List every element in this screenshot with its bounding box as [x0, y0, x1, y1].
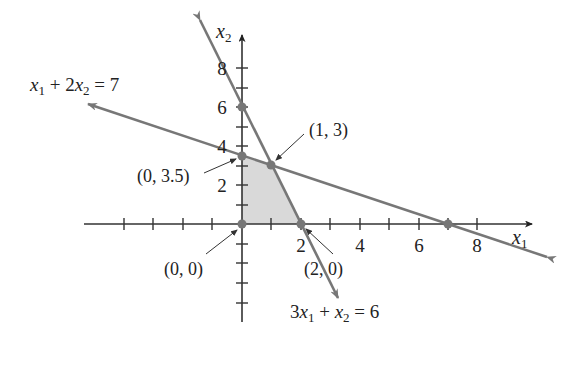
y-axis-label: x2 — [215, 20, 231, 45]
svg-text:(1, 3): (1, 3) — [309, 120, 348, 141]
point-0-6 — [238, 103, 247, 112]
svg-text:6: 6 — [217, 97, 227, 118]
linear-program-graph: 2 4 6 8 2 4 6 8 x1 x2 (0, 3.5) (1, 3) (0… — [0, 0, 568, 375]
equation-label-1: x1 + 2x2 = 7 — [29, 74, 119, 98]
leader-1-3 — [276, 134, 304, 160]
svg-text:6: 6 — [414, 235, 424, 256]
equation-label-2: 3x1 + x2 = 6 — [290, 301, 379, 325]
point-0-3.5 — [238, 152, 247, 161]
leader-0-3.5 — [204, 159, 236, 173]
svg-text:(2, 0): (2, 0) — [304, 259, 343, 280]
svg-text:8: 8 — [217, 58, 227, 79]
point-7-0 — [444, 220, 453, 229]
svg-text:4: 4 — [355, 235, 365, 256]
svg-text:4: 4 — [217, 136, 227, 157]
svg-text:8: 8 — [472, 235, 482, 256]
svg-text:(0, 3.5): (0, 3.5) — [137, 166, 190, 187]
point-1-3 — [267, 161, 276, 170]
point-0-0 — [238, 220, 247, 229]
svg-text:2: 2 — [296, 235, 306, 256]
x-axis-label: x1 — [511, 226, 527, 251]
y-tick-labels: 2 4 6 8 — [217, 58, 227, 196]
svg-text:2: 2 — [217, 175, 227, 196]
svg-text:(0, 0): (0, 0) — [164, 259, 203, 280]
leader-0-0 — [206, 230, 237, 254]
point-2-0 — [297, 220, 306, 229]
